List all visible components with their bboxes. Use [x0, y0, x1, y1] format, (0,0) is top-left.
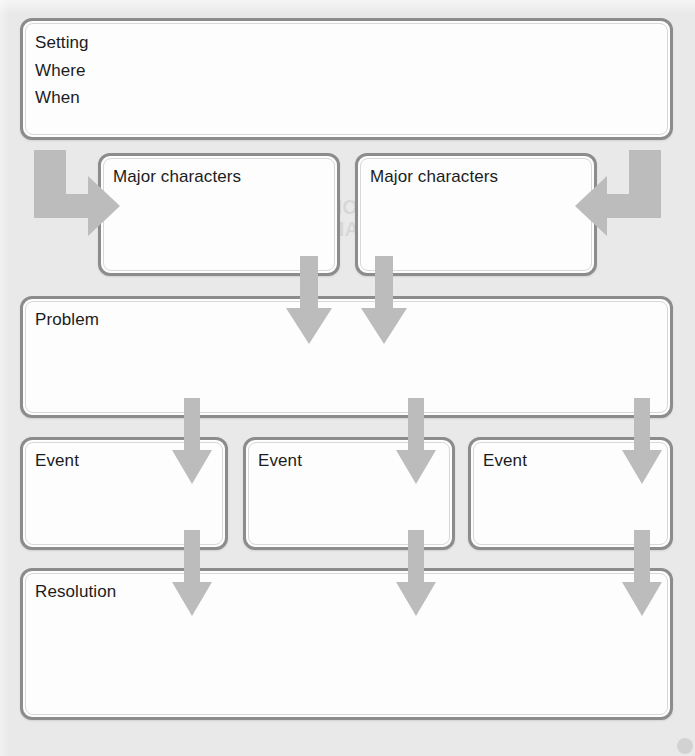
down-arrow-characters-to-problem-1 [286, 256, 332, 346]
worksheet-page: Tips for Goal-Setting Implementation CHA… [0, 0, 695, 756]
event-box-2-label: Event [258, 448, 302, 474]
down-arrow-event-to-resolution-2 [396, 530, 436, 618]
resolution-box-inner-outline [25, 573, 668, 715]
elbow-arrow-left-icon [573, 150, 665, 245]
down-arrow-characters-to-problem-2 [361, 256, 407, 346]
setting-label-line-2: Where [35, 57, 89, 85]
setting-label-line-3: When [35, 84, 89, 112]
down-arrow-event-to-resolution-3 [622, 530, 662, 618]
major-characters-label-2: Major characters [370, 164, 498, 190]
resolution-box[interactable]: Resolution [20, 568, 673, 720]
setting-box[interactable]: Setting Where When [20, 18, 673, 140]
down-arrow-problem-to-event-3 [622, 398, 662, 486]
setting-box-inner-outline [25, 23, 668, 135]
down-arrow-problem-to-event-1 [172, 398, 212, 486]
major-characters-label-1: Major characters [113, 164, 241, 190]
resolution-box-label: Resolution [35, 579, 116, 605]
problem-box-inner-outline [25, 301, 668, 413]
page-corner-dot [677, 738, 693, 754]
setting-box-label: Setting Where When [35, 29, 89, 112]
problem-box[interactable]: Problem [20, 296, 673, 418]
down-arrow-event-to-resolution-1 [172, 530, 212, 618]
problem-box-label: Problem [35, 307, 99, 333]
elbow-arrow-right-icon [30, 150, 122, 245]
down-arrow-problem-to-event-2 [396, 398, 436, 486]
event-box-3-label: Event [483, 448, 527, 474]
event-box-1-label: Event [35, 448, 79, 474]
setting-label-line-1: Setting [35, 29, 89, 57]
